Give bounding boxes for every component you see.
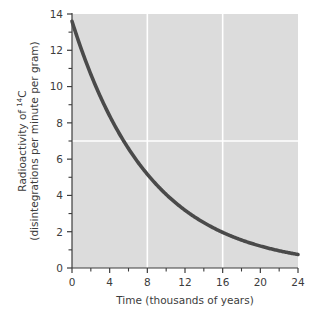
x-axis-title: Time (thousands of years)	[72, 294, 298, 306]
y-tick-label: 4	[56, 189, 63, 201]
y-tick-label: 0	[56, 262, 63, 274]
x-tick-label: 20	[254, 276, 267, 288]
chart-figure: Radioactivity of 14C (disintegrations pe…	[0, 0, 318, 324]
x-tick-label: 12	[178, 276, 191, 288]
y-tick-label: 12	[50, 44, 63, 56]
x-tick-label: 24	[291, 276, 305, 288]
x-tick-label: 0	[69, 276, 76, 288]
x-tick-label: 8	[144, 276, 151, 288]
plot-area: 0246810121404812162024	[0, 0, 318, 324]
x-tick-label: 16	[216, 276, 230, 288]
y-tick-label: 10	[50, 80, 63, 92]
y-tick-label: 2	[56, 226, 63, 238]
y-tick-label: 8	[56, 117, 63, 129]
y-tick-label: 14	[50, 8, 64, 20]
x-tick-label: 4	[106, 276, 113, 288]
y-tick-label: 6	[56, 153, 63, 165]
